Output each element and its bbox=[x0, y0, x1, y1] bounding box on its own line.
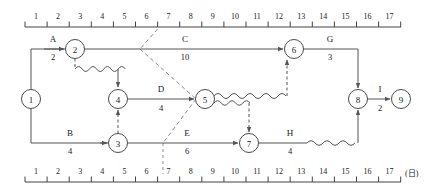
time-unit-label: (日) bbox=[405, 169, 419, 178]
node-5-label: 5 bbox=[203, 95, 208, 105]
bottom-tick-label-11: 11 bbox=[253, 167, 261, 176]
top-tick-label-5: 5 bbox=[122, 12, 126, 21]
top-tick-label-7: 7 bbox=[167, 12, 171, 21]
top-tick-label-17: 17 bbox=[386, 12, 394, 21]
float-wave-5-7 bbox=[214, 101, 250, 106]
activity-edges bbox=[44, 49, 390, 143]
node-3-label: 3 bbox=[116, 139, 121, 149]
activity-A-name: A bbox=[50, 34, 57, 44]
activity-B-duration: 4 bbox=[68, 146, 73, 156]
bottom-scale-ticks bbox=[25, 177, 401, 183]
activity-A-duration: 2 bbox=[51, 52, 55, 62]
top-tick-label-9: 9 bbox=[211, 12, 215, 21]
network-diagram-canvas: 1 2 3 4 5 6 7 8 9 10 11 12 13 14 15 16 1… bbox=[0, 0, 438, 193]
guide-segment-lower bbox=[163, 99, 196, 143]
bottom-tick-label-16: 16 bbox=[364, 167, 372, 176]
float-wave-5-6 bbox=[214, 94, 286, 99]
node-1-label: 1 bbox=[29, 95, 34, 105]
activity-D-name: D bbox=[158, 84, 165, 94]
activity-G-duration: 3 bbox=[328, 52, 332, 62]
top-tick-label-13: 13 bbox=[297, 12, 305, 21]
top-tick-label-8: 8 bbox=[189, 12, 193, 21]
activity-I-duration: 2 bbox=[378, 103, 382, 113]
node-5[interactable]: 5 bbox=[196, 90, 215, 109]
bottom-tick-label-10: 10 bbox=[231, 167, 239, 176]
node-9[interactable]: 9 bbox=[392, 90, 411, 109]
activity-E-name: E bbox=[184, 128, 190, 138]
top-tick-label-3: 3 bbox=[78, 12, 82, 21]
bottom-tick-label-15: 15 bbox=[341, 167, 349, 176]
node-2[interactable]: 2 bbox=[66, 40, 85, 59]
activity-D-duration: 4 bbox=[159, 103, 164, 113]
branch-1-to-A bbox=[31, 49, 66, 90]
top-tick-label-15: 15 bbox=[341, 12, 349, 21]
activity-C-name: C bbox=[182, 34, 188, 44]
node-4[interactable]: 4 bbox=[109, 90, 128, 109]
activity-H-duration: 4 bbox=[288, 146, 293, 156]
node-8[interactable]: 8 bbox=[349, 90, 368, 109]
activity-C-duration: 10 bbox=[181, 52, 190, 62]
activity-I-name: I bbox=[379, 84, 382, 94]
node-7-label: 7 bbox=[247, 139, 252, 149]
bottom-tick-label-2: 2 bbox=[56, 167, 60, 176]
bottom-tick-label-5: 5 bbox=[122, 167, 126, 176]
bottom-tick-label-3: 3 bbox=[78, 167, 82, 176]
float-wave-H bbox=[307, 141, 355, 146]
top-tick-label-16: 16 bbox=[364, 12, 372, 21]
bottom-tick-label-12: 12 bbox=[275, 167, 283, 176]
bottom-tick-label-4: 4 bbox=[100, 167, 104, 176]
activity-H-name: H bbox=[287, 128, 294, 138]
bottom-tick-label-8: 8 bbox=[189, 167, 193, 176]
activity-B-name: B bbox=[67, 128, 73, 138]
top-tick-label-11: 11 bbox=[253, 12, 261, 21]
top-tick-label-2: 2 bbox=[56, 12, 60, 21]
bottom-tick-label-17: 17 bbox=[386, 167, 394, 176]
node-6-label: 6 bbox=[292, 45, 297, 55]
nodes: 1 2 3 4 5 6 7 bbox=[22, 40, 411, 153]
node-6[interactable]: 6 bbox=[285, 40, 304, 59]
top-tick-label-14: 14 bbox=[319, 12, 327, 21]
top-tick-label-6: 6 bbox=[145, 12, 149, 21]
node-2-label: 2 bbox=[73, 45, 78, 55]
bottom-time-scale: 1 2 3 4 5 6 7 8 9 10 11 12 13 14 15 16 1… bbox=[25, 167, 419, 182]
bottom-tick-label-6: 6 bbox=[145, 167, 149, 176]
top-tick-label-12: 12 bbox=[275, 12, 283, 21]
activity-G-name: G bbox=[327, 34, 334, 44]
guide-segment-top bbox=[140, 29, 158, 49]
bottom-tick-label-7: 7 bbox=[167, 167, 171, 176]
bottom-tick-label-13: 13 bbox=[297, 167, 305, 176]
node-9-label: 9 bbox=[399, 95, 404, 105]
top-tick-label-4: 4 bbox=[100, 12, 104, 21]
bottom-tick-label-1: 1 bbox=[34, 167, 38, 176]
activity-E-duration: 6 bbox=[185, 146, 189, 156]
activity-labels: A 2 C 10 G 3 D 4 I 2 B 4 E 6 H 4 bbox=[50, 34, 382, 156]
top-tick-label-1: 1 bbox=[34, 12, 38, 21]
node-7[interactable]: 7 bbox=[240, 134, 259, 153]
arrow-diagram: 1 2 3 4 5 6 7 8 9 10 11 12 13 14 15 16 1… bbox=[0, 0, 438, 193]
bottom-tick-label-9: 9 bbox=[211, 167, 215, 176]
top-scale-ticks bbox=[25, 22, 401, 28]
top-time-scale: 1 2 3 4 5 6 7 8 9 10 11 12 13 14 15 16 1… bbox=[25, 12, 401, 27]
node-8-label: 8 bbox=[356, 95, 361, 105]
top-tick-label-10: 10 bbox=[231, 12, 239, 21]
node-1[interactable]: 1 bbox=[22, 90, 41, 109]
bottom-tick-label-14: 14 bbox=[319, 167, 327, 176]
node-4-label: 4 bbox=[116, 95, 121, 105]
node-3[interactable]: 3 bbox=[109, 134, 128, 153]
